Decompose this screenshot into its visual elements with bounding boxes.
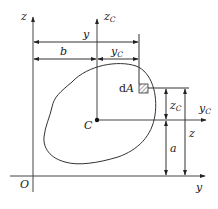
dimension-a-label: a bbox=[170, 142, 177, 155]
centroid-point: C bbox=[84, 118, 99, 132]
y-axis-label: y bbox=[195, 181, 203, 194]
diagram-canvas: z y O zC yC C dA y b yC bbox=[0, 0, 218, 209]
z-axis-label: z bbox=[20, 10, 27, 23]
zc-axis-label: zC bbox=[103, 10, 116, 24]
dimension-yc-label: yC bbox=[110, 45, 123, 59]
centroid-label: C bbox=[84, 119, 93, 132]
yc-axis-label: yC bbox=[198, 102, 211, 116]
dimension-z-label: z bbox=[188, 127, 195, 140]
dimension-yc: yC bbox=[98, 45, 138, 59]
area-element-label: dA bbox=[119, 82, 134, 95]
z-axis: z bbox=[20, 10, 33, 192]
dimension-y-label: y bbox=[82, 28, 90, 41]
dimension-zc: zC bbox=[166, 89, 182, 119]
dimension-zc-label: zC bbox=[169, 99, 182, 113]
y-axis: y bbox=[10, 176, 205, 194]
dimension-z: z bbox=[185, 89, 195, 175]
origin-label: O bbox=[20, 178, 29, 191]
dimension-b-label: b bbox=[60, 45, 67, 58]
dimension-b: b bbox=[34, 45, 96, 59]
dimension-a: a bbox=[166, 121, 177, 175]
yc-axis: yC bbox=[97, 102, 211, 120]
dimension-y: y bbox=[34, 28, 138, 42]
